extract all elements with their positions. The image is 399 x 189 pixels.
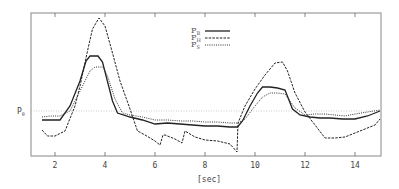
x-tick-label: 4: [103, 161, 108, 170]
x-tick-label: 10: [250, 161, 260, 170]
series-p-b: [42, 56, 380, 127]
x-tick-label: 12: [300, 161, 310, 170]
legend: PB PH PS: [191, 26, 230, 50]
x-axis-label: [sec]: [197, 175, 221, 184]
x-axis-ticks: 2468101214: [53, 13, 360, 170]
x-tick-label: 14: [350, 161, 360, 170]
x-tick-label: 2: [53, 161, 58, 170]
line-chart: P0 2468101214 [sec] PB PH PS: [0, 0, 399, 189]
x-tick-label: 8: [203, 161, 208, 170]
plot-frame: [31, 13, 381, 156]
p0-label: P0: [17, 107, 25, 117]
series-p-s: [42, 67, 380, 123]
x-tick-label: 6: [153, 161, 158, 170]
